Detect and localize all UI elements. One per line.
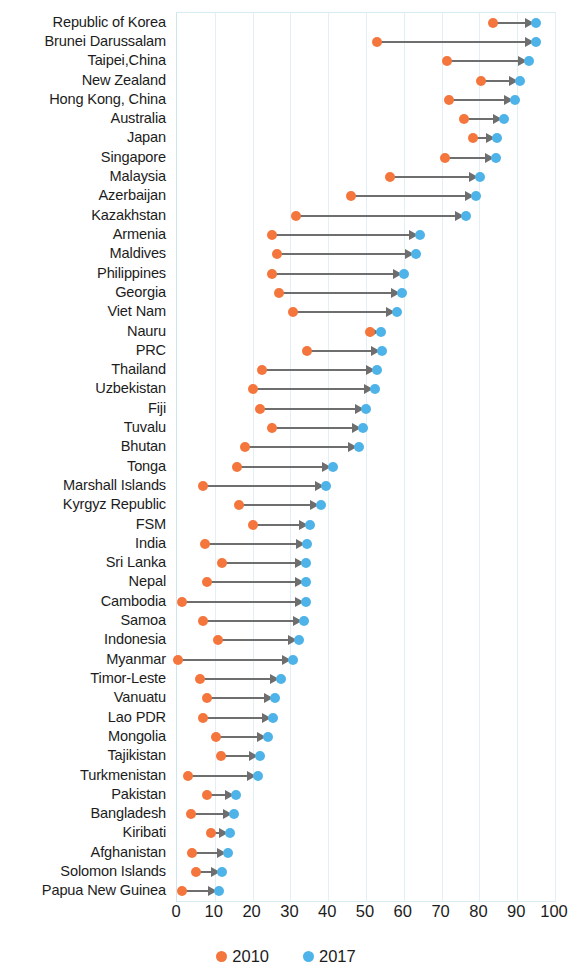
legend-dot-icon bbox=[216, 951, 227, 962]
x-tick-label: 80 bbox=[469, 903, 487, 920]
data-point-2010 bbox=[346, 191, 356, 201]
data-point-2017 bbox=[372, 365, 382, 375]
gridline-x-100 bbox=[555, 13, 556, 901]
category-label: Samoa bbox=[121, 613, 167, 628]
data-point-2017 bbox=[361, 404, 371, 414]
data-point-2017 bbox=[524, 56, 534, 66]
data-point-2017 bbox=[397, 288, 407, 298]
category-label: Cambodia bbox=[101, 593, 166, 608]
data-point-2010 bbox=[248, 520, 258, 530]
data-point-2017 bbox=[392, 307, 402, 317]
change-connector bbox=[222, 562, 300, 564]
gridline-x-20 bbox=[253, 13, 254, 901]
data-point-2017 bbox=[294, 635, 304, 645]
category-label: Marshall Islands bbox=[63, 478, 166, 493]
data-point-2010 bbox=[267, 230, 277, 240]
data-point-2017 bbox=[229, 809, 239, 819]
data-point-2017 bbox=[302, 539, 312, 549]
category-label: New Zealand bbox=[82, 72, 166, 87]
category-label: Tuvalu bbox=[124, 420, 166, 435]
x-axis-tick-labels: 0102030405060708090100 bbox=[176, 903, 554, 929]
category-label: Azerbaijan bbox=[99, 188, 166, 203]
gridline-x-80 bbox=[479, 13, 480, 901]
data-point-2010 bbox=[267, 423, 277, 433]
change-connector bbox=[237, 466, 326, 468]
legend-item[interactable]: 2017 bbox=[303, 948, 356, 965]
data-point-2017 bbox=[301, 577, 311, 587]
data-point-2017 bbox=[531, 37, 541, 47]
data-point-2017 bbox=[276, 674, 286, 684]
category-label: Papua New Guinea bbox=[42, 883, 166, 898]
category-label: Uzbekistan bbox=[95, 381, 166, 396]
change-connector bbox=[188, 775, 251, 777]
category-label: Vanuatu bbox=[114, 690, 166, 705]
change-connector bbox=[447, 60, 522, 62]
category-label: Fiji bbox=[148, 400, 166, 415]
change-connector bbox=[351, 195, 470, 197]
data-point-2017 bbox=[515, 76, 525, 86]
category-label: FSM bbox=[136, 516, 166, 531]
data-point-2010 bbox=[177, 886, 187, 896]
data-point-2017 bbox=[223, 848, 233, 858]
data-point-2017 bbox=[299, 616, 309, 626]
data-point-2010 bbox=[198, 616, 208, 626]
change-connector bbox=[178, 659, 287, 661]
dumbbell-chart: Republic of KoreaBrunei DarussalamTaipei… bbox=[0, 0, 572, 971]
category-label: Mongolia bbox=[108, 729, 166, 744]
data-point-2017 bbox=[415, 230, 425, 240]
category-label: Tajikistan bbox=[107, 748, 166, 763]
gridline-x-70 bbox=[442, 13, 443, 901]
change-connector bbox=[449, 99, 509, 101]
x-tick-label: 0 bbox=[171, 903, 180, 920]
data-point-2017 bbox=[255, 751, 265, 761]
data-point-2010 bbox=[213, 635, 223, 645]
category-label: Bangladesh bbox=[90, 806, 166, 821]
category-label: Japan bbox=[127, 130, 166, 145]
data-point-2017 bbox=[510, 95, 520, 105]
category-label: Republic of Korea bbox=[53, 14, 166, 29]
x-tick-label: 70 bbox=[431, 903, 449, 920]
data-point-2017 bbox=[471, 191, 481, 201]
data-point-2010 bbox=[195, 674, 205, 684]
data-point-2010 bbox=[202, 577, 212, 587]
change-connector bbox=[203, 620, 298, 622]
change-connector bbox=[307, 350, 377, 352]
data-point-2017 bbox=[370, 384, 380, 394]
data-point-2010 bbox=[291, 211, 301, 221]
data-point-2010 bbox=[372, 37, 382, 47]
data-point-2010 bbox=[240, 442, 250, 452]
data-point-2010 bbox=[191, 867, 201, 877]
change-connector bbox=[296, 215, 459, 217]
data-point-2010 bbox=[173, 655, 183, 665]
legend-item[interactable]: 2010 bbox=[216, 948, 269, 965]
category-label: Turkmenistan bbox=[80, 767, 166, 782]
data-point-2017 bbox=[263, 732, 273, 742]
data-point-2010 bbox=[288, 307, 298, 317]
data-point-2017 bbox=[411, 249, 421, 259]
data-point-2010 bbox=[177, 597, 187, 607]
data-point-2010 bbox=[186, 809, 196, 819]
data-point-2017 bbox=[399, 269, 409, 279]
change-connector bbox=[277, 253, 410, 255]
category-label: Nepal bbox=[129, 574, 166, 589]
category-label: Philippines bbox=[97, 265, 166, 280]
x-tick-label: 60 bbox=[394, 903, 412, 920]
data-point-2010 bbox=[187, 848, 197, 858]
change-connector bbox=[272, 234, 415, 236]
data-point-2017 bbox=[316, 500, 326, 510]
data-point-2010 bbox=[198, 481, 208, 491]
category-label: Singapore bbox=[101, 149, 166, 164]
category-label: Timor-Leste bbox=[90, 671, 166, 686]
category-label: Taipei,China bbox=[87, 53, 166, 68]
data-point-2010 bbox=[206, 828, 216, 838]
gridline-x-90 bbox=[517, 13, 518, 901]
data-point-2017 bbox=[358, 423, 368, 433]
category-label: Afghanistan bbox=[91, 844, 166, 859]
category-label: Bhutan bbox=[121, 439, 166, 454]
x-tick-label: 20 bbox=[242, 903, 260, 920]
plot-area bbox=[176, 12, 556, 902]
data-point-2010 bbox=[302, 346, 312, 356]
change-connector bbox=[390, 176, 474, 178]
category-label: Hong Kong, China bbox=[49, 92, 166, 107]
data-point-2017 bbox=[377, 346, 387, 356]
